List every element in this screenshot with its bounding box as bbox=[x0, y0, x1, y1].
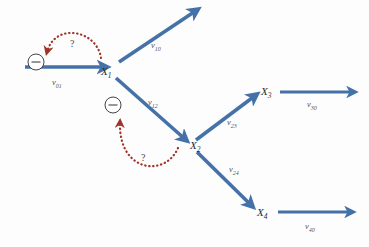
edge-v24-arrow bbox=[197, 152, 252, 206]
diagram-vector-layer bbox=[0, 0, 369, 247]
edge-v10-arrow bbox=[119, 10, 197, 62]
question-mark-2: ? bbox=[141, 153, 145, 163]
edge-label-v01: v01 bbox=[52, 78, 62, 89]
edge-v12-arrow bbox=[116, 78, 186, 140]
diagram-canvas: X1 X2 X3 X4 v01 v10 v12 v23 v24 v30 v40 … bbox=[0, 0, 369, 247]
feedback-arc-2 bbox=[120, 122, 178, 166]
edge-label-v40: v40 bbox=[305, 222, 315, 233]
question-mark-1: ? bbox=[70, 39, 74, 49]
node-label-x2: X2 bbox=[190, 140, 200, 154]
edge-label-v10: v10 bbox=[151, 41, 161, 52]
node-label-x3: X3 bbox=[261, 86, 271, 100]
edge-label-v30: v30 bbox=[307, 100, 317, 111]
edge-label-v24: v24 bbox=[229, 165, 239, 176]
edge-label-v23: v23 bbox=[227, 118, 237, 129]
node-label-x4: X4 bbox=[257, 207, 267, 221]
edge-v23-arrow bbox=[196, 95, 256, 140]
node-label-x1: X1 bbox=[101, 66, 111, 80]
edge-label-v12: v12 bbox=[148, 98, 158, 109]
